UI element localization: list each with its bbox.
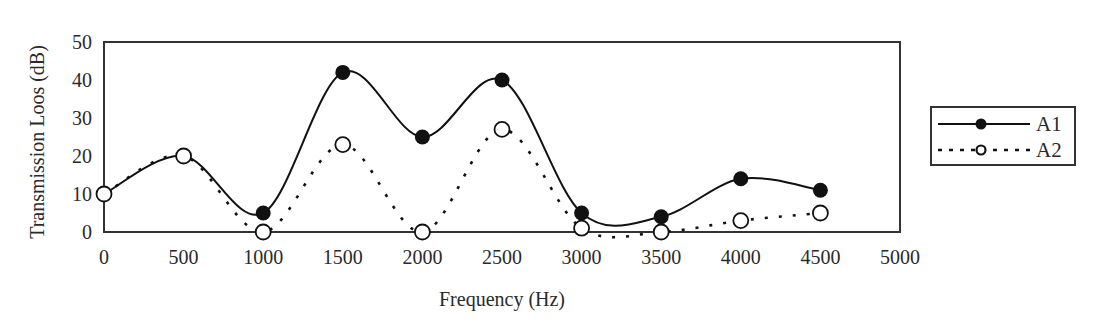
x-tick-label: 1000 xyxy=(243,246,283,268)
x-tick-label: 4000 xyxy=(721,246,761,268)
data-point-a2 xyxy=(813,206,828,221)
x-tick-label: 3000 xyxy=(562,246,602,268)
x-tick-label: 0 xyxy=(99,246,109,268)
series-line-a2 xyxy=(104,129,820,237)
legend: A1 A2 xyxy=(931,107,1075,165)
y-tick-label: 0 xyxy=(82,221,92,243)
data-point-a2 xyxy=(97,187,112,202)
y-axis-tick-labels: 01020304050 xyxy=(72,31,92,243)
y-tick-label: 20 xyxy=(72,145,92,167)
series-layer xyxy=(97,65,828,240)
data-point-a1 xyxy=(813,183,828,198)
y-tick-label: 40 xyxy=(72,69,92,91)
open-circle-marker-icon xyxy=(977,146,986,155)
data-point-a1 xyxy=(574,206,589,221)
y-tick-label: 50 xyxy=(72,31,92,53)
data-point-a1 xyxy=(415,130,430,145)
data-point-a2 xyxy=(574,221,589,236)
x-tick-label: 2500 xyxy=(482,246,522,268)
chart: 01020304050 0500100015002000250030003500… xyxy=(0,0,1105,333)
x-tick-label: 5000 xyxy=(880,246,920,268)
data-point-a2 xyxy=(654,225,669,240)
data-point-a1 xyxy=(495,73,510,88)
data-point-a2 xyxy=(256,225,271,240)
y-tick-label: 30 xyxy=(72,107,92,129)
x-tick-label: 3500 xyxy=(641,246,681,268)
x-tick-label: 4500 xyxy=(800,246,840,268)
data-point-a2 xyxy=(335,137,350,152)
x-axis-tick-labels: 0500100015002000250030003500400045005000 xyxy=(99,246,920,268)
x-axis-title: Frequency (Hz) xyxy=(439,288,565,311)
series-line-a1 xyxy=(104,71,820,226)
data-point-a2 xyxy=(415,225,430,240)
data-point-a1 xyxy=(256,206,271,221)
legend-label-a1: A1 xyxy=(1036,112,1062,136)
x-tick-label: 2000 xyxy=(402,246,442,268)
x-tick-label: 500 xyxy=(169,246,199,268)
line-chart-svg: 01020304050 0500100015002000250030003500… xyxy=(0,0,1105,333)
y-axis-title: Transmission Loos (dB) xyxy=(26,45,49,239)
data-point-a2 xyxy=(495,122,510,137)
legend-label-a2: A2 xyxy=(1036,138,1062,162)
data-point-a2 xyxy=(176,149,191,164)
data-point-a1 xyxy=(654,209,669,224)
data-point-a1 xyxy=(335,65,350,80)
y-tick-label: 10 xyxy=(72,183,92,205)
data-point-a2 xyxy=(733,213,748,228)
x-tick-label: 1500 xyxy=(323,246,363,268)
filled-circle-marker-icon xyxy=(976,119,987,130)
data-point-a1 xyxy=(733,171,748,186)
